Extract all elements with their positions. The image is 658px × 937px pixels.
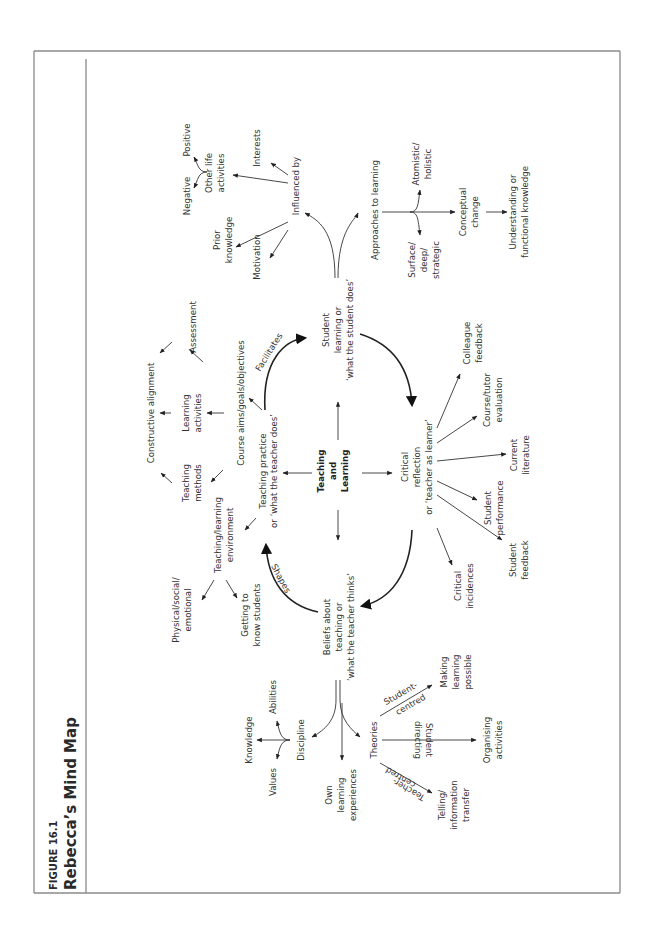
svg-text:transfer: transfer xyxy=(461,788,471,822)
svg-text:Telling/: Telling/ xyxy=(437,790,447,821)
svg-text:Getting to: Getting to xyxy=(240,593,250,636)
svg-text:strategic: strategic xyxy=(431,241,441,279)
svg-text:Approaches to learning: Approaches to learning xyxy=(370,160,380,260)
svg-text:Physical/social/: Physical/social/ xyxy=(171,577,181,642)
svg-text:Own: Own xyxy=(324,785,334,804)
figure-number: FIGURE 16.1 xyxy=(48,820,59,890)
node-critical-reflection: Critical reflection or ‘teacher as learn… xyxy=(400,419,434,515)
svg-text:‘what the student does’: ‘what the student does’ xyxy=(345,279,355,381)
svg-text:activities: activities xyxy=(494,720,504,759)
mind-map-canvas: FIGURE 16.1 Rebecca’s Mind Map Teaching … xyxy=(0,0,658,937)
svg-text:Course/tutor: Course/tutor xyxy=(482,373,492,427)
svg-text:Teaching/learning: Teaching/learning xyxy=(213,497,223,574)
svg-text:or ‘teacher as learner’: or ‘teacher as learner’ xyxy=(424,419,434,515)
svg-text:learning: learning xyxy=(451,654,461,689)
figure-title-block: FIGURE 16.1 Rebecca’s Mind Map xyxy=(48,717,80,890)
branch-student-learning: Influenced by Prior knowledge Motivation… xyxy=(182,123,530,279)
svg-text:Prior: Prior xyxy=(212,230,222,250)
svg-text:Current: Current xyxy=(509,438,519,471)
node-teaching-practice: Teaching practice or ‘what the teacher d… xyxy=(258,414,279,528)
svg-text:Discipline: Discipline xyxy=(296,719,306,761)
svg-text:feedback: feedback xyxy=(474,323,484,363)
svg-text:Student: Student xyxy=(508,542,518,576)
svg-text:learning or: learning or xyxy=(333,306,343,353)
svg-text:Colleague: Colleague xyxy=(462,322,472,365)
svg-text:Other life: Other life xyxy=(204,153,214,193)
svg-text:Student: Student xyxy=(483,490,493,524)
svg-text:activities: activities xyxy=(193,393,203,432)
svg-text:or ‘what the teacher does’: or ‘what the teacher does’ xyxy=(269,414,279,528)
svg-text:Learning: Learning xyxy=(340,450,350,493)
svg-text:Interests: Interests xyxy=(252,129,262,167)
svg-text:performance: performance xyxy=(495,480,505,535)
svg-text:Positive: Positive xyxy=(182,123,192,156)
svg-text:feedback: feedback xyxy=(520,540,530,580)
svg-text:‘what the teacher thinks’: ‘what the teacher thinks’ xyxy=(346,573,356,681)
svg-text:Influenced by: Influenced by xyxy=(291,157,301,215)
svg-text:change: change xyxy=(470,196,480,228)
branch-tl-environment: Teaching/learning environment Physical/s… xyxy=(171,497,262,646)
svg-text:experiences: experiences xyxy=(348,768,358,821)
svg-text:Atomistic/: Atomistic/ xyxy=(411,142,421,185)
svg-text:Motivation: Motivation xyxy=(252,234,262,279)
svg-text:Values: Values xyxy=(268,767,278,796)
svg-text:emotional: emotional xyxy=(183,588,193,631)
svg-text:Teaching: Teaching xyxy=(316,450,326,493)
svg-text:Student: Student xyxy=(321,312,331,346)
branch-teaching-practice: Course aims/goals/objectives Teaching me… xyxy=(146,301,262,503)
svg-text:Learning: Learning xyxy=(181,394,191,431)
branch-beliefs: Discipline Abilities Knowledge Values Ow… xyxy=(244,654,504,829)
theories-edge-labels: Student- centred Student directing Teach… xyxy=(382,680,434,804)
svg-text:evaluation: evaluation xyxy=(494,377,504,422)
svg-text:Teaching practice: Teaching practice xyxy=(258,433,268,509)
svg-text:Theories: Theories xyxy=(369,721,379,759)
svg-text:Teaching: Teaching xyxy=(181,464,191,503)
svg-text:Course aims/goals/objectives: Course aims/goals/objectives xyxy=(236,340,246,466)
svg-text:learning: learning xyxy=(336,777,346,812)
svg-text:Abilities: Abilities xyxy=(268,679,278,714)
svg-text:reflection: reflection xyxy=(412,447,422,488)
svg-text:deep/: deep/ xyxy=(419,248,429,272)
svg-text:Constructive alignment: Constructive alignment xyxy=(146,362,156,463)
node-student-learning: Student learning or ‘what the student do… xyxy=(321,279,355,381)
svg-text:know students: know students xyxy=(252,583,262,646)
svg-text:information: information xyxy=(449,780,459,830)
figure-frame xyxy=(34,51,620,893)
svg-text:environment: environment xyxy=(225,507,235,562)
svg-text:activities: activities xyxy=(216,153,226,192)
branch-critical-reflection: Colleague feedback Course/tutor evaluati… xyxy=(437,322,531,609)
svg-text:literature: literature xyxy=(521,435,531,475)
svg-text:directing: directing xyxy=(413,721,423,759)
svg-text:functional knowledge: functional knowledge xyxy=(520,166,530,258)
figure-title: Rebecca’s Mind Map xyxy=(62,717,80,890)
svg-text:Critical: Critical xyxy=(453,571,463,601)
svg-text:Critical: Critical xyxy=(400,452,410,482)
svg-text:Assessment: Assessment xyxy=(188,301,198,353)
svg-text:Surface/: Surface/ xyxy=(407,242,417,278)
svg-text:Student: Student xyxy=(424,723,434,757)
svg-text:incidences: incidences xyxy=(465,563,475,609)
svg-text:Organising: Organising xyxy=(482,717,492,763)
svg-text:Negative: Negative xyxy=(182,177,192,216)
svg-text:possible: possible xyxy=(463,654,473,689)
svg-text:methods: methods xyxy=(193,464,203,502)
svg-text:holistic: holistic xyxy=(423,149,433,180)
svg-text:knowledge: knowledge xyxy=(224,217,234,264)
svg-text:Making: Making xyxy=(439,657,449,688)
center-node: Teaching and Learning xyxy=(316,450,350,493)
svg-text:teaching or: teaching or xyxy=(334,602,344,651)
node-beliefs: Beliefs about teaching or ‘what the teac… xyxy=(322,573,356,681)
svg-text:Understanding or: Understanding or xyxy=(508,174,518,249)
svg-text:and: and xyxy=(328,462,338,480)
svg-text:Conceptual: Conceptual xyxy=(458,188,468,237)
svg-text:Beliefs about: Beliefs about xyxy=(322,598,332,655)
svg-text:Knowledge: Knowledge xyxy=(244,716,254,763)
